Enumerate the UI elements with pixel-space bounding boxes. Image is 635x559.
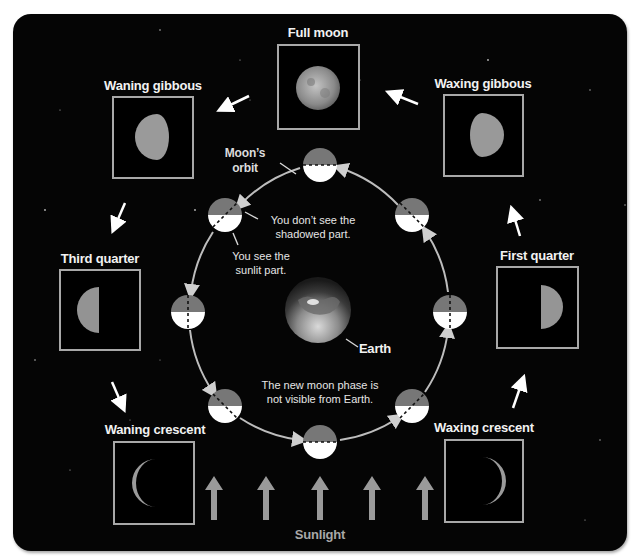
orbit-label: Moon’s orbit [225,146,265,176]
waning-gibbous-label: Waning gibbous [104,78,202,93]
full-moon-box [277,44,360,130]
waxing-crescent-box [444,439,524,523]
waxing-gibbous-label: Waxing gibbous [434,76,531,91]
sunlit-part-note: You see the sunlit part. [232,249,290,277]
full-moon-label: Full moon [288,25,348,40]
waxing-crescent-label: Waxing crescent [434,420,534,435]
sunlight-arrows [205,476,434,520]
first-quarter-label: First quarter [500,248,574,263]
shadowed-part-note: You don’t see the shadowed part. [271,213,356,241]
third-quarter-label: Third quarter [61,251,139,266]
sunlight-label: Sunlight [295,527,345,542]
waning-gibbous-box [112,96,194,179]
earth-label: Earth [359,341,391,356]
first-quarter-box [496,266,579,349]
earth-icon [285,277,351,343]
waning-crescent-box [113,441,195,525]
waning-crescent-label: Waning crescent [105,422,206,437]
third-quarter-box [59,269,141,351]
waxing-gibbous-box [443,94,524,177]
new-moon-note: The new moon phase is not visible from E… [262,378,379,406]
moon-phases-panel: Full moon Waxing gibbous First quarter W… [13,14,627,551]
